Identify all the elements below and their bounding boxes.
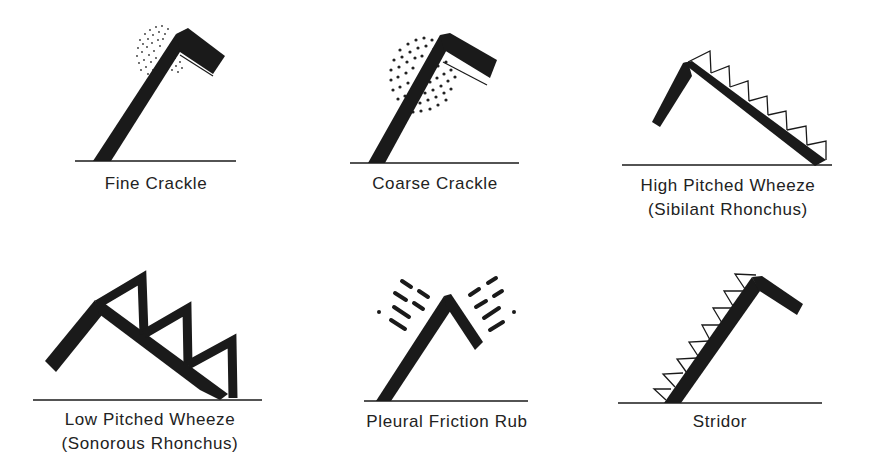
- fine-crackle-label: Fine Crackle: [75, 172, 237, 196]
- high-pitched-wheeze-symbol: [622, 51, 832, 166]
- panel-label: Stridor: [693, 412, 747, 431]
- panel-label: High Pitched Wheeze: [622, 174, 834, 198]
- panel-sublabel: (Sibilant Rhonchus): [622, 198, 834, 222]
- low-pitched-wheeze-symbol: [33, 278, 262, 400]
- low-pitched-wheeze-label: Low Pitched Wheeze (Sonorous Rhonchus): [35, 408, 265, 456]
- pleural-friction-rub-symbol: [364, 278, 528, 401]
- panel-label: Fine Crackle: [105, 174, 208, 193]
- stridor-symbol: [618, 274, 822, 403]
- coarse-crackle-symbol: [350, 33, 519, 163]
- panel-label: Coarse Crackle: [372, 174, 498, 193]
- coarse-crackle-label: Coarse Crackle: [350, 172, 520, 196]
- lung-sounds-diagram: Fine Crackle Coarse Crackle High Pitched…: [0, 0, 869, 472]
- high-pitched-wheeze-label: High Pitched Wheeze (Sibilant Rhonchus): [622, 174, 834, 222]
- panel-label: Pleural Friction Rub: [366, 412, 527, 431]
- panel-sublabel: (Sonorous Rhonchus): [35, 432, 265, 456]
- stridor-label: Stridor: [660, 410, 780, 434]
- pleural-friction-rub-label: Pleural Friction Rub: [345, 410, 549, 434]
- fine-crackle-symbol: [75, 25, 236, 161]
- panel-label: Low Pitched Wheeze: [35, 408, 265, 432]
